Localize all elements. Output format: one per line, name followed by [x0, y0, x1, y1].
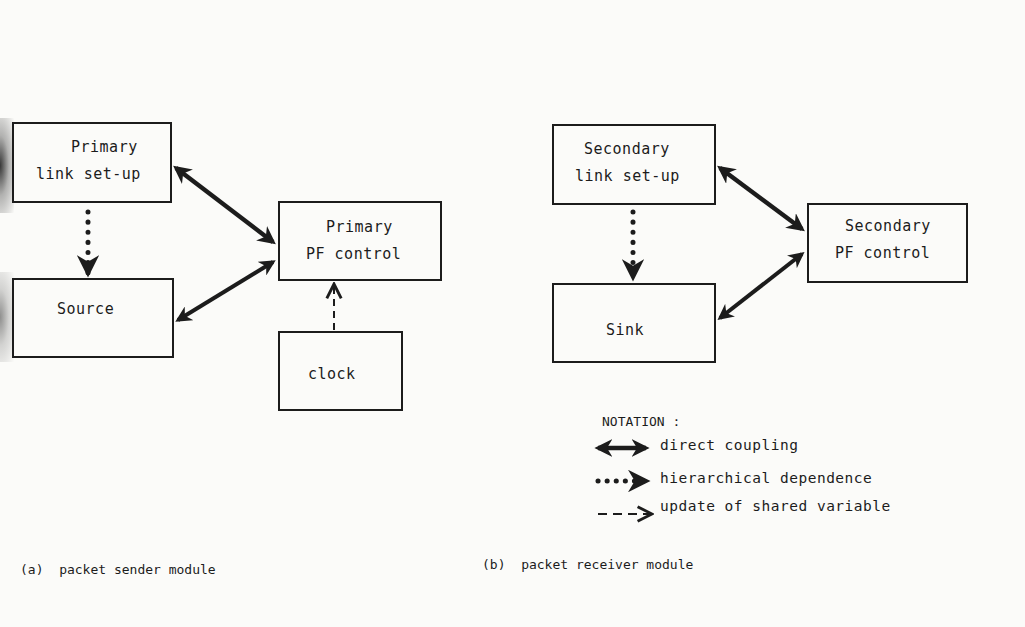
box-label: clock	[308, 361, 401, 388]
box-secondary-pf-control: Secondary PF control	[807, 203, 968, 283]
caption-panel-a: (a) packet sender module	[20, 562, 216, 577]
box-primary-link-setup: Primary link set-up	[12, 122, 172, 203]
box-primary-pf-control: Primary PF control	[278, 201, 442, 281]
box-label: link set-up	[36, 161, 170, 188]
legend-label: direct coupling	[660, 437, 798, 453]
box-label: Primary	[71, 134, 170, 161]
edge-sec-link-setup-to-sec-pf-control	[720, 168, 802, 229]
edge-source-to-pf-control	[178, 262, 273, 320]
legend-label: hierarchical dependence	[660, 470, 872, 486]
notation-title: NOTATION :	[602, 414, 680, 429]
box-source: Source	[12, 278, 174, 358]
box-secondary-link-setup: Secondary link set-up	[552, 124, 716, 205]
edge-sink-to-sec-pf-control	[720, 254, 802, 318]
edge-link-setup-to-pf-control	[176, 168, 273, 242]
box-label: Secondary	[845, 213, 966, 240]
legend-item-direct-coupling: direct coupling	[660, 437, 798, 453]
legend-item-shared-variable: update of shared variable	[660, 498, 891, 514]
legend-label: update of shared variable	[660, 498, 891, 514]
legend-symbols	[598, 448, 652, 514]
box-label: Secondary	[584, 136, 714, 163]
box-clock: clock	[278, 331, 403, 411]
caption-panel-b: (b) packet receiver module	[482, 557, 693, 572]
box-label: PF control	[835, 240, 966, 267]
box-label: link set-up	[575, 163, 714, 190]
box-label: Primary	[326, 214, 440, 241]
box-label: PF control	[306, 241, 440, 268]
box-label: Source	[57, 296, 172, 323]
legend-item-hierarchical-dependence: hierarchical dependence	[660, 470, 872, 486]
box-label: Sink	[606, 317, 714, 344]
box-sink: Sink	[552, 283, 716, 363]
